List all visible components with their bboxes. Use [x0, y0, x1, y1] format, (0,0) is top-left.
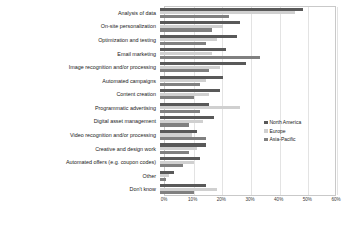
bar-asia-pacific: [160, 15, 229, 18]
legend-swatch-icon: [264, 129, 268, 133]
category-label: Digital asset management: [0, 118, 160, 124]
bar-asia-pacific: [160, 83, 200, 86]
chart-row: Don't know: [0, 183, 343, 197]
bar-asia-pacific: [160, 178, 166, 181]
bar-asia-pacific: [160, 56, 260, 59]
category-label: Programmatic advertising: [0, 105, 160, 111]
chart-legend: North AmericaEuropeAsia-Pacific: [264, 120, 301, 142]
category-label: Email marketing: [0, 51, 160, 57]
bar-group: [160, 20, 343, 34]
bar-group: [160, 101, 343, 115]
bar-group: [160, 6, 343, 20]
bar-asia-pacific: [160, 151, 189, 154]
category-label: Other: [0, 173, 160, 179]
x-tick-label: 60%: [331, 197, 340, 202]
x-tick-label: 0%: [161, 197, 168, 202]
bar-asia-pacific: [160, 137, 206, 140]
chart-row: Automated offers (e.g. coupon codes): [0, 155, 343, 169]
category-label: Video recognition and/or processing: [0, 132, 160, 138]
x-tick-label: 30%: [245, 197, 254, 202]
chart-row: Other: [0, 169, 343, 183]
bar-group: [160, 155, 343, 169]
x-tick-label: 10%: [188, 197, 197, 202]
category-label: Automated campaigns: [0, 78, 160, 84]
legend-item[interactable]: Asia-Pacific: [264, 137, 301, 142]
category-label: Don't know: [0, 186, 160, 192]
bar-asia-pacific: [160, 191, 194, 194]
x-tick-label: 50%: [303, 197, 312, 202]
bar-rows: Analysis of dataOn-site personalizationO…: [0, 6, 343, 196]
bar-asia-pacific: [160, 123, 189, 126]
chart-row: Email marketing: [0, 47, 343, 61]
chart-row: Optimization and testing: [0, 33, 343, 47]
bar-asia-pacific: [160, 69, 209, 72]
chart-row: Programmatic advertising: [0, 101, 343, 115]
bar-group: [160, 47, 343, 61]
bar-asia-pacific: [160, 164, 183, 167]
bar-asia-pacific: [160, 110, 200, 113]
chart-row: Automated campaigns: [0, 74, 343, 88]
bar-group: [160, 183, 343, 197]
legend-label: North America: [270, 120, 302, 125]
legend-label: Asia-Pacific: [270, 137, 296, 142]
category-label: Content creation: [0, 91, 160, 97]
bar-group: [160, 87, 343, 101]
bar-group: [160, 74, 343, 88]
chart-row: Analysis of data: [0, 6, 343, 20]
bar-group: [160, 128, 343, 142]
chart-row: Creative and design work: [0, 142, 343, 156]
bar-group: [160, 142, 343, 156]
chart-row: On-site personalization: [0, 20, 343, 34]
bar-group: [160, 60, 343, 74]
category-label: Analysis of data: [0, 10, 160, 16]
x-axis: 0%10%20%30%40%50%60%: [164, 197, 336, 209]
category-label: Optimization and testing: [0, 37, 160, 43]
bar-asia-pacific: [160, 42, 206, 45]
category-label: Image recognition and/or processing: [0, 64, 160, 70]
legend-label: Europe: [270, 129, 286, 134]
x-tick-label: 40%: [274, 197, 283, 202]
legend-item[interactable]: North America: [264, 120, 301, 125]
bar-group: [160, 169, 343, 183]
bar-group: [160, 115, 343, 129]
legend-swatch-icon: [264, 121, 268, 125]
chart-row: Content creation: [0, 87, 343, 101]
bar-asia-pacific: [160, 28, 212, 31]
bar-asia-pacific: [160, 96, 194, 99]
bar-group: [160, 33, 343, 47]
category-label: Creative and design work: [0, 146, 160, 152]
legend-item[interactable]: Europe: [264, 129, 301, 134]
category-label: Automated offers (e.g. coupon codes): [0, 159, 160, 165]
bar-chart: Analysis of dataOn-site personalizationO…: [0, 0, 343, 229]
x-tick-label: 20%: [217, 197, 226, 202]
category-label: On-site personalization: [0, 23, 160, 29]
legend-swatch-icon: [264, 138, 268, 142]
chart-row: Image recognition and/or processing: [0, 60, 343, 74]
